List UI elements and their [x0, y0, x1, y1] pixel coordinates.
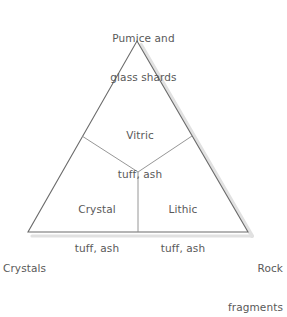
field-label-lithic-tuff-ash: Lithic tuff, ash — [143, 177, 223, 281]
bottom-right-label-line1: Rock — [228, 262, 283, 275]
bottom-left-label-line1: Crystals — [3, 262, 46, 275]
bottom-right-label-line2: fragments — [228, 301, 283, 314]
field-label-crystal-line1: Crystal — [56, 203, 138, 216]
apex-label-pumice-and-glass-shards: Pumice and glass shards — [0, 6, 287, 110]
bottom-left-label-crystals: Crystals — [3, 236, 46, 301]
field-label-lithic-line1: Lithic — [143, 203, 223, 216]
field-label-lithic-line2: tuff, ash — [143, 242, 223, 255]
apex-label-line1: Pumice and — [0, 32, 287, 45]
bottom-right-label-rock-fragments: Rock fragments — [228, 236, 283, 317]
apex-label-line2: glass shards — [0, 71, 287, 84]
field-label-vitric-line1: Vitric — [98, 129, 182, 142]
field-label-crystal-line2: tuff, ash — [56, 242, 138, 255]
field-label-crystal-tuff-ash: Crystal tuff, ash — [56, 177, 138, 281]
